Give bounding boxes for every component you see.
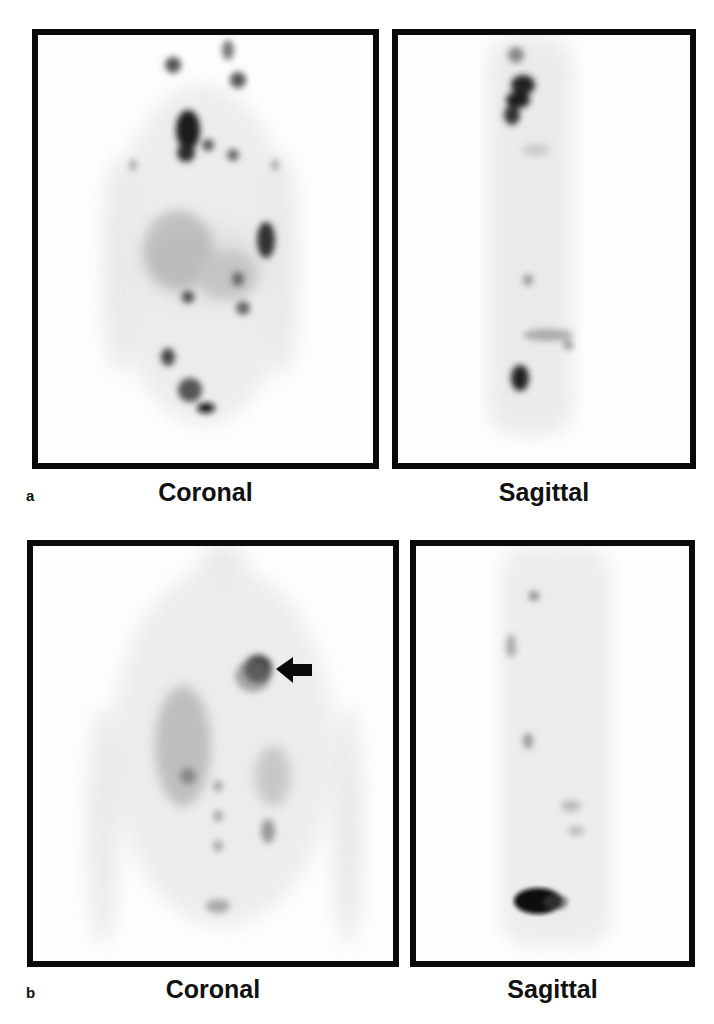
panel-a-sagittal-image [392,29,696,469]
panel-b-sagittal-image [410,540,695,967]
coronal-pet-scan-a [38,35,373,463]
panel-a-coronal-caption: Coronal [32,478,379,507]
panel-b-sagittal-caption: Sagittal [410,975,695,1004]
panel-b-coronal-caption: Coronal [27,975,399,1004]
panel-a-coronal-image [32,29,379,469]
panel-b-coronal-image [27,540,399,967]
sagittal-pet-scan-b [416,546,689,961]
panel-a-sagittal-caption: Sagittal [392,478,696,507]
sagittal-pet-scan-a [398,35,690,463]
coronal-pet-scan-b [33,546,393,961]
